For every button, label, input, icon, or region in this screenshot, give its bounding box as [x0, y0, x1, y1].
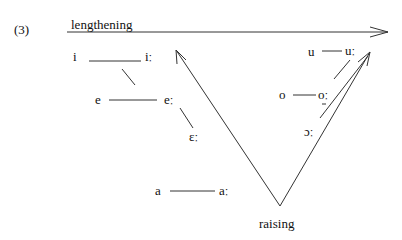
vowel-o-long: oː: [318, 88, 328, 101]
vowel-e-long: eː: [164, 93, 173, 106]
vowel-i: i: [73, 50, 77, 63]
vowel-o: o: [279, 88, 286, 101]
example-number: (3): [14, 23, 29, 36]
raising-label: raising: [259, 217, 294, 230]
front-chain-lower: [180, 108, 193, 128]
vowel-u: u: [308, 45, 315, 58]
vowel-a: a: [155, 184, 161, 197]
raising-arrows: [176, 50, 370, 206]
vowel-u-long: uː: [345, 44, 355, 57]
vowel-i-long: iː: [145, 50, 152, 63]
vowel-open-o-long: ɔː: [304, 125, 313, 138]
back-chain-upper: [334, 60, 350, 79]
vowel-a-long: aː: [219, 184, 228, 197]
front-chain-upper: [122, 69, 135, 85]
lengthening-label: lengthening: [71, 18, 132, 31]
vowel-e: e: [95, 93, 101, 106]
diagram-lines: [0, 0, 402, 240]
vowel-open-e-long: ɛː: [189, 130, 198, 143]
